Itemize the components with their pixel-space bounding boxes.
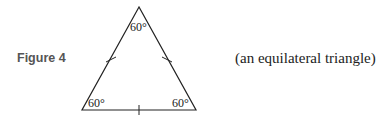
angle-label-bottom-right: 60°: [172, 96, 189, 110]
figure-caption: (an equilateral triangle): [235, 50, 376, 67]
angle-label-bottom-left: 60°: [88, 96, 105, 110]
angle-label-top: 60°: [130, 20, 147, 34]
